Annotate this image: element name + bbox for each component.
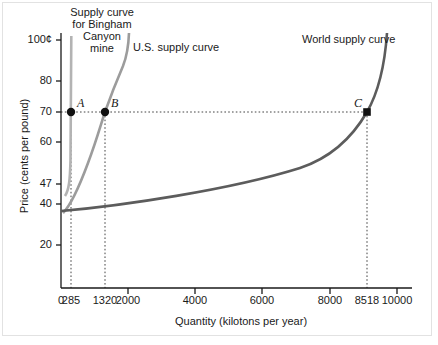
x-tick-10000: 10000 (378, 294, 416, 306)
x-tick-285: 285 (58, 294, 84, 306)
x-tick-6000: 6000 (245, 294, 279, 306)
world-supply-label: World supply curve (302, 33, 395, 45)
axes (61, 33, 412, 288)
y-tick-80: 80 (8, 74, 52, 86)
x-axis-title: Quantity (kilotons per year) (175, 315, 307, 327)
point-c-label: C (354, 96, 362, 111)
x-tick-2000: 2000 (111, 294, 145, 306)
point-b-label: B (111, 96, 118, 111)
y-tick-70: 70 (8, 105, 52, 117)
y-tick-40: 40 (8, 197, 52, 209)
guide-lines (61, 112, 367, 288)
bingham-line-1: Supply curve (58, 6, 146, 18)
y-tick-20: 20 (8, 238, 52, 250)
y-tick-100: 100¢ (8, 33, 52, 45)
point-c (363, 108, 371, 116)
x-tick-4000: 4000 (178, 294, 212, 306)
chart-page: 100¢ 80 70 60 47 40 20 0 285 1320 2000 4… (0, 0, 438, 345)
x-tick-8000: 8000 (313, 294, 347, 306)
y-axis-title: Price (cents per pound) (18, 86, 30, 226)
us-supply-label: U.S. supply curve (133, 41, 219, 53)
bingham-line-2: for Bingham (58, 18, 146, 30)
world-supply-curve (61, 33, 387, 211)
y-tick-60: 60 (8, 135, 52, 147)
point-a-label: A (77, 96, 84, 111)
us-supply-curve (63, 33, 129, 213)
point-b (101, 108, 109, 116)
axis-ticks (56, 40, 397, 294)
y-tick-47: 47 (8, 177, 52, 189)
point-a (67, 108, 75, 116)
